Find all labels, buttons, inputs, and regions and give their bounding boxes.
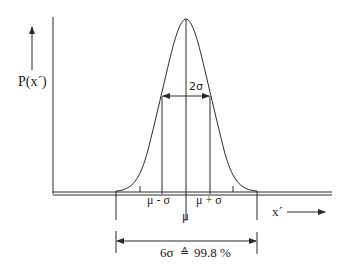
x-axis-label: x´: [272, 204, 283, 219]
span-label-prefix: 6σ: [160, 245, 174, 260]
gaussian-diagram: P(x´) x´ 2σ μ - σ μ + σ μ 6σ ≙ 99.8 %: [0, 0, 346, 269]
minus-sigma-label: μ - σ: [147, 193, 170, 207]
plus-sigma-label: μ + σ: [196, 193, 222, 207]
span-label-value: 99.8 %: [194, 245, 231, 260]
y-axis-label: P(x´): [18, 74, 47, 90]
two-sigma-label: 2σ: [189, 80, 203, 93]
mean-label: μ: [182, 208, 189, 223]
span-label-symbol: ≙: [180, 246, 189, 259]
